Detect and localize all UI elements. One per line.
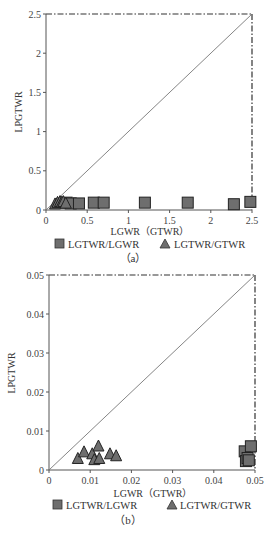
x-tick-label: 0 bbox=[44, 215, 49, 226]
reference-line-y-equals-x bbox=[46, 14, 252, 210]
chart-panel-a: 00.511.522.5 00.511.522.5 LPGTWR LGWR（GT… bbox=[0, 0, 273, 268]
y-tick-label: 1 bbox=[36, 126, 41, 137]
legend: LGTWR/LGWR LGTWR/GTWR bbox=[55, 239, 245, 250]
square-marker bbox=[245, 441, 256, 452]
triangle-marker-icon bbox=[167, 500, 177, 509]
chart-panel-b: 00.010.020.030.040.05 00.010.020.030.040… bbox=[0, 268, 273, 535]
square-marker bbox=[228, 199, 239, 210]
y-tick-label: 2 bbox=[36, 48, 41, 59]
legend-label-square: LGTWR/LGWR bbox=[66, 500, 137, 511]
plot-area: 00.511.522.5 00.511.522.5 bbox=[29, 9, 259, 227]
y-tick-label: 0.03 bbox=[27, 348, 45, 359]
y-tick-label: 1.5 bbox=[29, 87, 42, 98]
panel-label: （b） bbox=[114, 514, 142, 526]
plot-area: 00.010.020.030.040.05 00.010.020.030.040… bbox=[27, 270, 264, 487]
x-tick-label: 0.04 bbox=[205, 475, 223, 486]
x-tick-label: 0 bbox=[47, 475, 52, 486]
x-axis-title: LGWR（GTWR） bbox=[111, 226, 190, 237]
y-tick-label: 0.5 bbox=[29, 165, 42, 176]
x-axis-title: LGWR（GTWR） bbox=[114, 488, 193, 499]
x-tick-label: 2.5 bbox=[246, 215, 259, 226]
x-tick-label: 0.5 bbox=[81, 215, 94, 226]
legend: LGTWR/LGWR LGTWR/GTWR bbox=[53, 500, 251, 511]
x-tick-label: 0.03 bbox=[164, 475, 182, 486]
data-points bbox=[72, 440, 256, 467]
y-axis-title: LPGTWR bbox=[6, 352, 17, 393]
y-tick-label: 0.02 bbox=[27, 387, 45, 398]
square-marker bbox=[245, 196, 256, 207]
square-marker-icon bbox=[55, 239, 64, 248]
x-tick-label: 0.01 bbox=[81, 475, 99, 486]
x-tick-label: 0.02 bbox=[123, 475, 141, 486]
y-ticks: 00.010.020.030.040.05 bbox=[27, 270, 50, 476]
x-tick-label: 1 bbox=[126, 215, 131, 226]
legend-label-square: LGTWR/LGWR bbox=[68, 239, 139, 250]
square-marker bbox=[243, 455, 254, 466]
x-ticks: 00.511.522.5 bbox=[44, 210, 259, 226]
x-tick-label: 2 bbox=[208, 215, 213, 226]
square-marker bbox=[139, 197, 150, 208]
triangle-marker-icon bbox=[160, 239, 170, 248]
square-marker bbox=[98, 197, 109, 208]
y-tick-label: 0 bbox=[39, 465, 44, 476]
triangle-marker bbox=[93, 440, 104, 451]
y-tick-label: 0.05 bbox=[27, 270, 45, 281]
x-tick-label: 0.05 bbox=[246, 475, 264, 486]
y-tick-label: 0 bbox=[36, 205, 41, 216]
y-ticks: 00.511.522.5 bbox=[29, 9, 47, 216]
triangle-marker bbox=[79, 446, 90, 457]
y-tick-label: 2.5 bbox=[29, 9, 42, 20]
square-marker bbox=[88, 197, 99, 208]
square-marker bbox=[73, 198, 84, 209]
panel-label: （a） bbox=[120, 252, 147, 264]
y-tick-label: 0.04 bbox=[27, 309, 45, 320]
y-tick-label: 0.01 bbox=[27, 426, 45, 437]
data-points bbox=[50, 196, 256, 210]
legend-label-triangle: LGTWR/GTWR bbox=[180, 500, 251, 511]
square-marker bbox=[182, 197, 193, 208]
square-marker-icon bbox=[53, 500, 62, 509]
legend-label-triangle: LGTWR/GTWR bbox=[174, 239, 245, 250]
x-ticks: 00.010.020.030.040.05 bbox=[47, 470, 264, 486]
y-axis-title: LPGTWR bbox=[13, 91, 24, 132]
reference-line-y-equals-x bbox=[49, 275, 255, 470]
x-tick-label: 1.5 bbox=[163, 215, 176, 226]
